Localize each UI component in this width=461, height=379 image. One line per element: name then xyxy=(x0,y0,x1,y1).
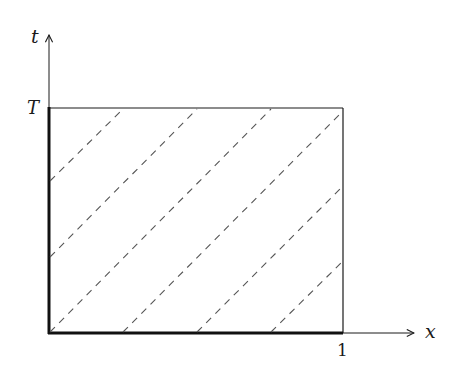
characteristic-line-1 xyxy=(50,109,123,181)
x-axis-label: x xyxy=(425,322,436,341)
diagram-canvas xyxy=(0,0,461,379)
characteristic-line-2 xyxy=(50,109,197,257)
characteristic-lines xyxy=(50,109,342,332)
t-tick-label-T: T xyxy=(27,99,39,117)
t-axis-label: t xyxy=(31,27,39,46)
characteristic-line-5 xyxy=(197,187,342,332)
x-tick-label-1: 1 xyxy=(337,342,348,359)
characteristic-line-3 xyxy=(50,109,271,332)
characteristic-line-4 xyxy=(123,112,342,332)
characteristic-line-6 xyxy=(271,262,342,332)
